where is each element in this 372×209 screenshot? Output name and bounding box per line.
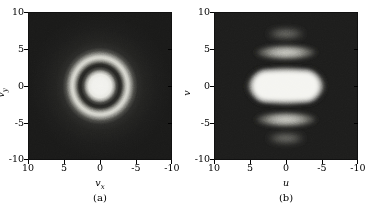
- xaxis-title-a-sub: x: [101, 183, 105, 191]
- band-upper-faint: [260, 27, 311, 41]
- xticklabel-b-1: 5: [247, 163, 253, 173]
- yticklabel-a-2: 0: [18, 81, 24, 91]
- ytick-b-2: [210, 86, 214, 87]
- ytick-b-0: [210, 12, 214, 13]
- ytick-right-b-2: [354, 86, 358, 87]
- ytick-b-3: [210, 123, 214, 124]
- ytick-b-1: [210, 49, 214, 50]
- yticklabel-a-1: 5: [18, 44, 24, 54]
- ytick-b-4: [210, 159, 214, 160]
- xaxis-title-b-main: u: [283, 177, 289, 188]
- yticklabel-b-3: -5: [201, 118, 210, 128]
- xticklabel-b-2: 0: [283, 163, 289, 173]
- panel-caption-b: (b): [214, 192, 358, 203]
- band-upper: [253, 45, 318, 61]
- yticklabel-b-2: 0: [204, 81, 210, 91]
- plot-area-b: [214, 12, 358, 160]
- panel-caption-a: (a): [28, 192, 172, 203]
- ytick-a-4: [24, 159, 28, 160]
- yaxis-title-a-sub: y: [1, 88, 9, 92]
- ytick-a-3: [24, 123, 28, 124]
- yticklabel-a-4: -10: [9, 154, 24, 164]
- ytick-a-0: [24, 12, 28, 13]
- yaxis-title-b: v: [181, 90, 195, 95]
- ytick-right-a-1: [168, 49, 172, 50]
- yaxis-title-b-main: v: [181, 90, 192, 95]
- ytick-right-b-1: [354, 49, 358, 50]
- yticklabel-a-0: 10: [12, 7, 24, 17]
- panel-a: 10 5 0 -5 -10 10 5 0 -5 -10 vx vy (a): [0, 0, 186, 209]
- xaxis-title-a: vx: [28, 177, 172, 191]
- yaxis-title-a: vy: [0, 88, 9, 97]
- xticklabel-a-2: 0: [97, 163, 103, 173]
- central-lobe: [247, 67, 326, 104]
- xticklabel-a-3: -5: [131, 163, 140, 173]
- figure-container: 10 5 0 -5 -10 10 5 0 -5 -10 vx vy (a): [0, 0, 372, 209]
- panel-b: 10 5 0 -5 -10 10 5 0 -5 -10 u v (b): [186, 0, 372, 209]
- xticklabel-b-0: 10: [208, 163, 220, 173]
- yticklabel-b-4: -10: [195, 154, 210, 164]
- yticklabel-b-0: 10: [198, 7, 210, 17]
- heatmap-b: [215, 13, 357, 159]
- yticklabel-a-3: -5: [15, 118, 24, 128]
- xaxis-title-b: u: [214, 177, 358, 191]
- ytick-a-2: [24, 86, 28, 87]
- yticklabel-b-1: 5: [204, 44, 210, 54]
- heatmap-a: [29, 13, 171, 159]
- ytick-right-a-2: [168, 86, 172, 87]
- ytick-right-a-3: [168, 123, 172, 124]
- plot-area-a: [28, 12, 172, 160]
- xticklabel-a-4: -10: [164, 163, 179, 173]
- xticklabel-b-4: -10: [350, 163, 365, 173]
- xticklabel-a-0: 10: [22, 163, 34, 173]
- band-lower-faint: [260, 131, 311, 145]
- ytick-right-b-3: [354, 123, 358, 124]
- band-lower: [253, 112, 318, 128]
- ytick-a-1: [24, 49, 28, 50]
- xticklabel-b-3: -5: [317, 163, 326, 173]
- xticklabel-a-1: 5: [61, 163, 67, 173]
- yaxis-title-a-main: v: [0, 92, 6, 97]
